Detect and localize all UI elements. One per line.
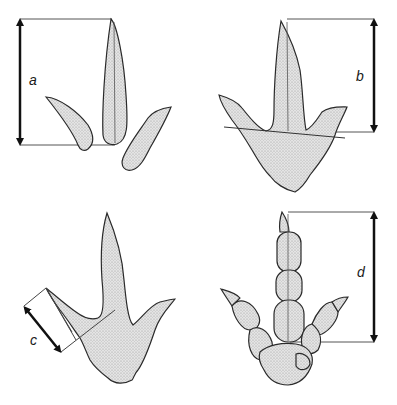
label-c: c	[30, 332, 37, 348]
label-d: d	[357, 264, 365, 280]
panel-c	[24, 213, 175, 383]
panel-b	[219, 19, 374, 192]
label-a: a	[29, 72, 37, 88]
label-b: b	[356, 68, 364, 84]
panel-d	[221, 212, 374, 385]
footprint-b	[219, 21, 347, 192]
digit-iv-a	[122, 107, 171, 170]
footprint-c	[46, 213, 175, 383]
digit-ii-a	[46, 97, 93, 150]
footprint-d	[221, 212, 348, 385]
footprint-diagram	[0, 0, 397, 405]
panel-a	[20, 19, 171, 170]
